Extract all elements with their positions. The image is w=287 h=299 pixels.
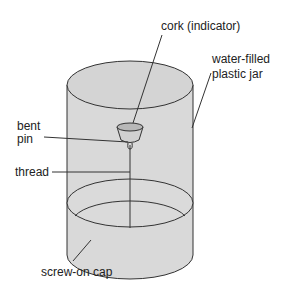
label-cap: screw-on cap — [41, 266, 112, 279]
label-jar-line2: plastic jar — [212, 68, 263, 81]
jar-top — [67, 61, 193, 109]
label-cork: cork (indicator) — [161, 20, 240, 33]
label-jar-line1: water-filled — [212, 53, 270, 66]
jar-diagram — [0, 0, 287, 299]
label-thread: thread — [15, 166, 49, 179]
label-pin-line2: pin — [17, 133, 33, 146]
